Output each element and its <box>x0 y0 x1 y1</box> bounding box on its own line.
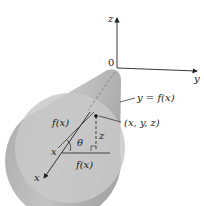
radius-label-bottom: f(x) <box>75 159 93 170</box>
y-axis-label: y <box>193 73 200 84</box>
disk-cross-section <box>15 93 125 203</box>
y-axis <box>117 68 197 71</box>
height-label: z <box>98 130 105 141</box>
angle-label: θ <box>77 137 83 148</box>
radius-label-top: f(x) <box>51 117 69 128</box>
curve-leader <box>120 98 135 102</box>
z-axis-label: z <box>107 13 114 24</box>
point-xyz <box>94 114 98 118</box>
origin-label: 0 <box>108 57 114 68</box>
diagram-canvas: z y x 0 y = f(x) (x, y, z) f(x) f(x) z θ… <box>0 0 204 206</box>
point-label: (x, y, z) <box>124 117 160 128</box>
curve-label: y = f(x) <box>136 92 175 103</box>
solid-of-revolution-diagram: z y x 0 y = f(x) (x, y, z) f(x) f(x) z θ… <box>0 0 204 206</box>
x-axis-label: x <box>34 172 40 183</box>
center-label: x <box>51 146 57 157</box>
